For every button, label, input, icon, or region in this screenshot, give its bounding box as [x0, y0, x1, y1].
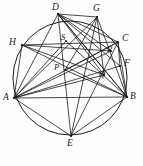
chord-bs — [66, 41, 127, 97]
chord-db — [58, 14, 127, 97]
chord-aq — [14, 75, 104, 98]
point-d — [57, 13, 59, 15]
point-b — [126, 96, 128, 98]
chord-ab — [14, 97, 127, 98]
label-f: F — [124, 59, 130, 69]
label-c: C — [122, 34, 128, 44]
label-p: P — [54, 63, 59, 72]
label-e: E — [67, 139, 73, 149]
chord-cd — [58, 14, 118, 42]
chord-be — [71, 97, 127, 136]
label-q: Q — [99, 70, 105, 79]
point-e — [70, 135, 72, 137]
chord-ae — [14, 98, 71, 136]
point-c — [117, 41, 119, 43]
label-b: B — [130, 92, 136, 102]
geometry-figure: ABCDEFGHPQRS — [0, 0, 143, 166]
point-a — [13, 97, 15, 99]
label-s: S — [61, 33, 65, 42]
point-p — [64, 69, 66, 71]
point-s — [65, 40, 67, 42]
point-h — [21, 44, 23, 46]
label-g: G — [93, 4, 100, 14]
chord-bp — [65, 70, 127, 97]
point-f — [119, 65, 121, 67]
label-a: A — [3, 93, 9, 103]
label-h: H — [9, 38, 16, 48]
chord-segment-group — [14, 14, 127, 136]
label-d: D — [52, 3, 59, 13]
point-g — [96, 16, 98, 18]
label-r: R — [107, 45, 112, 54]
chord-df — [58, 14, 120, 66]
